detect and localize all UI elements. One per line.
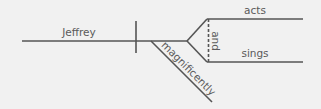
subject-word: Jeffrey [61, 26, 96, 38]
verb-word-sings: sings [241, 47, 268, 59]
modifier-word: magnificently [159, 39, 218, 98]
verb-word-acts: acts [244, 4, 266, 16]
fork-upper [187, 19, 207, 41]
sentence-diagram: Jeffrey acts sings and magnificently [0, 0, 321, 109]
modifier-line [151, 41, 212, 102]
fork-lower [187, 41, 207, 62]
conjunction-word: and [210, 31, 222, 51]
